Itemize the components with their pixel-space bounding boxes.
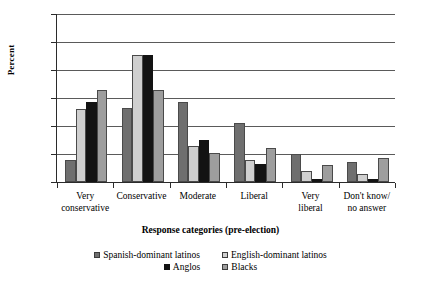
legend-swatch-icon [222, 252, 228, 258]
x-tick-mark [282, 183, 283, 188]
bar [76, 109, 87, 182]
x-tick-mark [395, 183, 396, 188]
legend-item: Blacks [222, 262, 257, 272]
bar [86, 102, 97, 182]
bar [97, 90, 108, 182]
legend-swatch-icon [222, 264, 228, 270]
legend-item: English-dominant latinos [222, 250, 327, 260]
bar [122, 108, 133, 182]
gridline [57, 42, 395, 43]
legend-row-2: AnglosBlacks [0, 262, 421, 272]
x-tick-mark [170, 183, 171, 188]
bar [234, 123, 245, 182]
bar [291, 154, 302, 182]
bar [153, 90, 164, 182]
gridline [57, 154, 395, 155]
legend-label: Blacks [231, 262, 257, 272]
bar [132, 55, 143, 182]
gridline [57, 14, 395, 15]
bar [188, 146, 199, 182]
bar [357, 174, 368, 182]
bar [312, 179, 323, 182]
bar [199, 140, 210, 182]
legend-label: English-dominant latinos [231, 250, 327, 260]
bar [143, 55, 154, 182]
gridline [57, 126, 395, 127]
bar [209, 153, 220, 182]
legend-label: Anglos [173, 262, 200, 272]
gridline [57, 98, 395, 99]
chart-legend: Spanish-dominant latinosEnglish-dominant… [0, 250, 421, 274]
bar [266, 148, 277, 182]
legend-swatch-icon [94, 252, 100, 258]
legend-item: Spanish-dominant latinos [94, 250, 200, 260]
bar [347, 162, 358, 182]
y-axis-title: Percent [6, 20, 16, 100]
bar [178, 102, 189, 182]
bar [368, 179, 379, 182]
x-tick-mark [339, 183, 340, 188]
legend-item: Anglos [164, 262, 200, 272]
legend-swatch-icon [164, 264, 170, 270]
bar [245, 160, 256, 182]
x-tick-mark [57, 183, 58, 188]
bar-chart-figure: Percent 0102030405060 VeryconservativeCo… [0, 0, 421, 290]
plot-area [57, 14, 395, 182]
bar [301, 171, 312, 182]
x-tick-label: Don't know/no answer [329, 191, 405, 214]
x-tick-mark [113, 183, 114, 188]
gridline [57, 70, 395, 71]
bar [255, 164, 266, 182]
bar [378, 158, 389, 182]
legend-row-1: Spanish-dominant latinosEnglish-dominant… [0, 250, 421, 260]
bar [322, 165, 333, 182]
legend-label: Spanish-dominant latinos [103, 250, 200, 260]
bar [65, 160, 76, 182]
x-axis-title: Response categories (pre-election) [0, 225, 421, 235]
x-tick-mark [226, 183, 227, 188]
